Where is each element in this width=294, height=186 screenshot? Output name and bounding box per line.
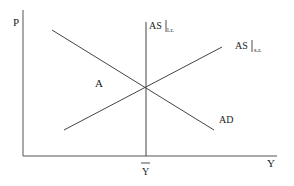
as-short-run-label: AS s.r. [235, 40, 262, 53]
svg-text:AS: AS [235, 40, 248, 51]
as-short-run-curve [64, 47, 222, 130]
x-axis-label: Y [267, 157, 275, 169]
y-axis-label: P [13, 16, 19, 28]
ad-curve [52, 30, 214, 130]
ad-label: AD [219, 114, 233, 125]
svg-text:s.r.: s.r. [254, 46, 262, 53]
point-a-label: A [95, 77, 103, 89]
svg-text:Y: Y [142, 166, 149, 177]
svg-text:l.r.: l.r. [167, 26, 174, 33]
y-bar-label: Y [141, 163, 150, 177]
ad-as-diagram: P Y A AD AS l.r. AS s.r. Y [0, 0, 294, 186]
as-long-run-label: AS l.r. [149, 20, 174, 33]
svg-text:AS: AS [149, 20, 162, 31]
